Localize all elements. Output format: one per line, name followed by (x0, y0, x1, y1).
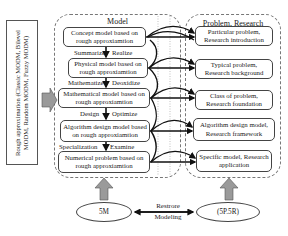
five-m-ellipse: 5M (76, 202, 132, 222)
up-arrow-right-icon (220, 178, 238, 200)
five-p-five-r-ellipse: (5P.5R) (196, 202, 260, 222)
class-of-problem-node: Class of problem, Research foundation (195, 90, 273, 110)
step-design: Design (80, 110, 99, 118)
step-optimize: Optimize (112, 110, 137, 118)
concept-model-node: Concept model based on rough approxiamti… (63, 27, 146, 47)
step-realize: Realize (112, 49, 132, 57)
particular-problem-node: Particular problem, Research introductio… (195, 26, 273, 46)
numerical-problem-node: Numerical problem based on rough approxi… (58, 151, 150, 173)
rough-approximation-box: Rough approximation (Classic MODM, Bilev… (6, 20, 38, 165)
up-arrow-left-icon (95, 178, 113, 200)
typical-problem-node: Typical problem, Research background (195, 59, 273, 79)
step-mathematize: Mathematize (68, 79, 103, 87)
modeling-label: Modeling (148, 213, 188, 221)
step-summarize: Summarize (74, 49, 105, 57)
specific-model-node: Specific model, Research application (196, 150, 272, 172)
mathematical-model-node: Mathematical model based on rough approx… (58, 88, 150, 108)
step-examine: Examine (110, 143, 134, 151)
algorithm-framework-node: Algorithm design model, Research framewo… (193, 118, 275, 141)
step-deoxidize: Deoxidize (112, 79, 140, 87)
physical-model-node: Physical model based on rough approxiamt… (68, 58, 148, 78)
step-specialization: Specialization (59, 143, 98, 151)
algorithm-design-model-node: Algorithm design model based on rough ap… (60, 120, 150, 142)
model-panel-title: Model (55, 17, 180, 26)
rough-approximation-label: Rough approximation (Classic MODM, Bilev… (14, 21, 31, 164)
restore-label: Restrore (148, 202, 188, 210)
